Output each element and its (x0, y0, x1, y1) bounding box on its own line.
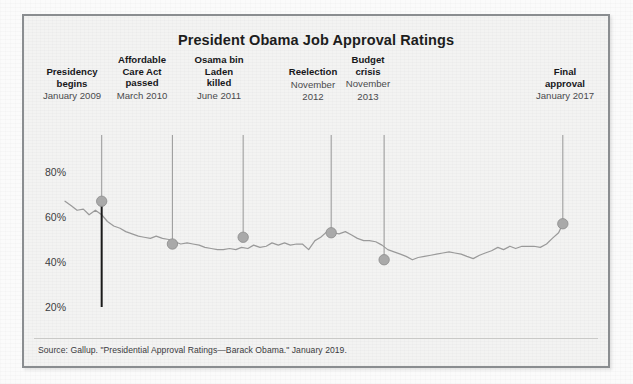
event-marker (326, 228, 336, 238)
event-marker (96, 196, 106, 206)
source-note: Source: Gallup. "Presidential Approval R… (38, 345, 347, 355)
screenshot-page: President Obama Job Approval Ratings Pre… (0, 0, 633, 384)
figure-frame: President Obama Job Approval Ratings Pre… (22, 14, 610, 368)
event-marker (558, 219, 568, 229)
event-marker (167, 239, 177, 249)
event-markers-group (96, 196, 568, 265)
source-divider (34, 338, 598, 339)
event-marker (379, 255, 389, 265)
event-marker (238, 232, 248, 242)
approval-line (65, 201, 563, 260)
line-chart-plot (24, 16, 612, 370)
